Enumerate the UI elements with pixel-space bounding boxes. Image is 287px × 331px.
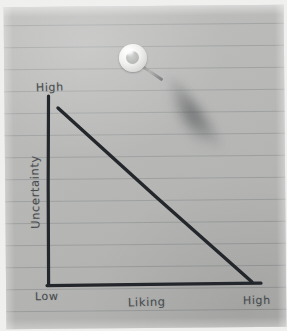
rule-line: [5, 177, 285, 180]
rule-line: [6, 243, 286, 246]
x-axis-title: Liking: [128, 295, 166, 310]
rule-line: [6, 309, 286, 312]
rule-line: [5, 199, 285, 202]
y-axis-high-label: High: [36, 81, 64, 95]
rule-line: [6, 265, 286, 268]
x-axis-low-label: Low: [35, 290, 59, 303]
rule-line: [5, 155, 285, 158]
push-pin-highlight: [123, 47, 134, 55]
push-pin: [113, 38, 175, 94]
rule-line: [5, 221, 285, 224]
rule-line: [5, 111, 285, 114]
photo-scene: High Uncertainty Low Liking High: [0, 0, 287, 331]
rule-line: [5, 133, 285, 136]
x-axis-high-label: High: [243, 294, 271, 307]
rule-line: [4, 23, 284, 26]
y-axis-title: Uncertainty: [27, 155, 42, 229]
